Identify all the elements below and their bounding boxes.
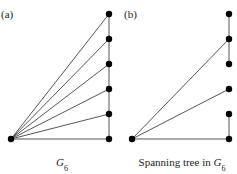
edge-hub-r1 xyxy=(11,14,109,139)
vertex-r4 xyxy=(106,86,112,92)
edge-hub-r5 xyxy=(11,114,109,139)
vertex-r2 xyxy=(106,36,112,42)
vertex-r6 xyxy=(226,136,232,142)
panel-a-caption: G6 xyxy=(56,156,68,173)
vertex-r5 xyxy=(226,111,232,117)
vertex-r3 xyxy=(106,61,112,67)
edge-hub-r4 xyxy=(11,89,109,139)
panel-a: (a) G6 xyxy=(1,8,112,173)
vertex-r2 xyxy=(226,36,232,42)
panel-a-label: (a) xyxy=(1,8,14,21)
panel-b-label: (b) xyxy=(124,8,137,21)
vertex-r5 xyxy=(106,111,112,117)
graph-diagram: (a) G6 (b) Spanning tree in G6 xyxy=(0,0,237,174)
vertex-r4 xyxy=(226,86,232,92)
panel-b: (b) Spanning tree in G6 xyxy=(124,8,232,173)
vertex-r6 xyxy=(106,136,112,142)
vertex-hub xyxy=(129,136,135,142)
panel-b-caption: Spanning tree in G6 xyxy=(139,156,226,173)
edge-hub-r2 xyxy=(11,39,109,139)
edge-hub-r2 xyxy=(132,39,229,139)
edge-hub-r3 xyxy=(11,64,109,139)
vertex-hub xyxy=(8,136,14,142)
vertex-r1 xyxy=(106,11,112,17)
vertex-r1 xyxy=(226,11,232,17)
edge-hub-r4 xyxy=(132,89,229,139)
vertex-r3 xyxy=(226,61,232,67)
